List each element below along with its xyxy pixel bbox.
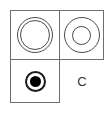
grid-cell-bottom-right[interactable]: C xyxy=(60,60,104,103)
wide-double-ring-inner-circle xyxy=(72,26,91,45)
thin-double-ring-inner-circle xyxy=(20,20,50,50)
wide-double-ring-icon xyxy=(64,17,100,53)
grid-cell-top-right[interactable] xyxy=(60,10,104,60)
grid-cell-top-left[interactable] xyxy=(10,10,60,60)
symbol-grid: C xyxy=(10,10,104,103)
thin-double-ring-icon xyxy=(17,17,53,53)
cell-content-top-left xyxy=(11,11,59,59)
filled-dot-core xyxy=(30,76,41,87)
cell-content-top-right xyxy=(60,11,103,59)
cell-content-bottom-right: C xyxy=(60,60,104,103)
grid-cell-bottom-left[interactable] xyxy=(10,60,60,103)
figure-panel: C xyxy=(0,0,111,115)
cell-content-bottom-left xyxy=(11,60,59,102)
cell-letter-label: C xyxy=(77,75,86,88)
filled-dot-in-ring-icon xyxy=(25,71,46,92)
